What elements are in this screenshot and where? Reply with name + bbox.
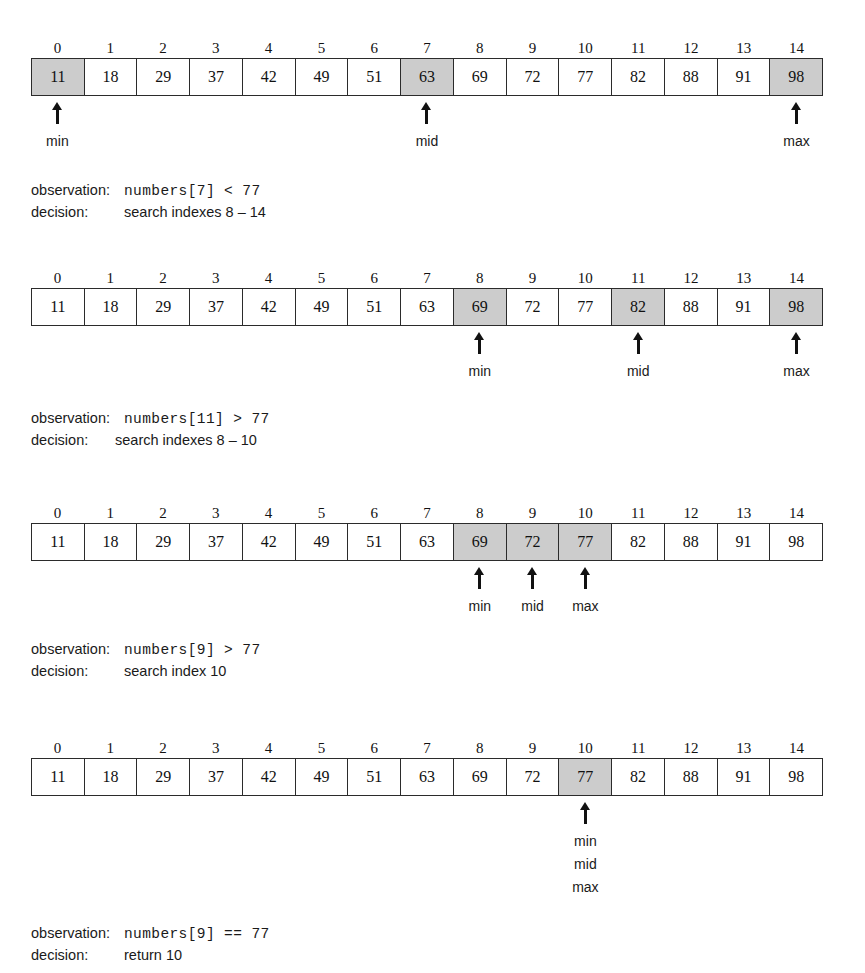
- step-caption: observation:numbers[7] < 77decision:sear…: [31, 182, 631, 226]
- array-cell: 49: [296, 759, 349, 795]
- array-cell: 37: [190, 289, 243, 325]
- index-label: 13: [717, 38, 770, 58]
- array-cell: 82: [612, 759, 665, 795]
- array-cell: 88: [665, 759, 718, 795]
- step-caption: observation:numbers[9] > 77decision:sear…: [31, 641, 631, 685]
- observation-line: observation:numbers[7] < 77: [31, 182, 631, 204]
- array-cell: 98: [770, 759, 822, 795]
- observation-line: observation:numbers[9] == 77: [31, 925, 631, 947]
- index-label: 0: [31, 503, 84, 523]
- search-step-3: 0123456789101112131411182937424951636972…: [31, 503, 823, 617]
- array-cell: 51: [348, 524, 401, 560]
- index-label: 9: [506, 38, 559, 58]
- index-label-row: 01234567891011121314: [31, 38, 823, 58]
- array-cell: 42: [243, 59, 296, 95]
- index-label: 14: [770, 738, 823, 758]
- index-label: 4: [242, 738, 295, 758]
- index-label-row: 01234567891011121314: [31, 268, 823, 288]
- binary-search-figure: 0123456789101112131411182937424951636972…: [0, 0, 865, 973]
- index-label: 3: [189, 268, 242, 288]
- observation-expression: numbers[7] < 77: [124, 183, 261, 199]
- index-label: 5: [295, 503, 348, 523]
- array-cell: 37: [190, 759, 243, 795]
- pointer-row: minmidmax: [31, 326, 823, 382]
- array-cell: 51: [348, 59, 401, 95]
- index-label: 14: [770, 38, 823, 58]
- index-label: 4: [242, 38, 295, 58]
- array-cell-highlighted: 82: [612, 289, 665, 325]
- index-label: 0: [31, 738, 84, 758]
- array-cell: 88: [665, 289, 718, 325]
- index-label: 11: [612, 503, 665, 523]
- arrow-up-icon: [580, 567, 591, 589]
- index-label: 3: [189, 38, 242, 58]
- index-label: 5: [295, 268, 348, 288]
- index-label: 6: [348, 738, 401, 758]
- array-cell: 11: [32, 289, 85, 325]
- array-cell: 69: [454, 59, 507, 95]
- array-cell: 18: [85, 524, 138, 560]
- index-label: 4: [242, 268, 295, 288]
- pointer-label: min: [31, 130, 84, 153]
- array-row: 111829374249516369727782889198: [31, 523, 823, 561]
- index-label: 10: [559, 503, 612, 523]
- pointer-row: minmidmax: [31, 96, 823, 152]
- observation-expression: numbers[9] > 77: [124, 642, 261, 658]
- pointer-marker: mid: [506, 561, 559, 618]
- pointer-labels: max: [559, 595, 612, 618]
- index-label: 10: [559, 38, 612, 58]
- pointer-row: minmidmax: [31, 561, 823, 617]
- array-cell: 18: [85, 759, 138, 795]
- pointer-label: mid: [401, 130, 454, 153]
- index-label: 8: [453, 38, 506, 58]
- decision-line: decision:search indexes 8 – 10: [31, 432, 631, 454]
- index-label: 7: [401, 738, 454, 758]
- array-cell: 29: [137, 524, 190, 560]
- array-cell: 82: [612, 524, 665, 560]
- decision-label: decision:: [31, 432, 115, 448]
- index-label: 3: [189, 738, 242, 758]
- array-cell: 77: [559, 59, 612, 95]
- index-label: 10: [559, 268, 612, 288]
- observation-expression: numbers[11] > 77: [124, 411, 270, 427]
- arrow-up-icon: [52, 102, 63, 124]
- array-cell: 98: [770, 524, 822, 560]
- array-cell-highlighted: 98: [770, 289, 822, 325]
- index-label: 13: [717, 503, 770, 523]
- array-cell: 72: [507, 289, 560, 325]
- array-cell: 11: [32, 524, 85, 560]
- array-row: 111829374249516369727782889198: [31, 288, 823, 326]
- arrow-up-icon: [474, 332, 485, 354]
- array-cell: 29: [137, 289, 190, 325]
- search-step-1: 0123456789101112131411182937424951636972…: [31, 38, 823, 152]
- index-label: 1: [84, 268, 137, 288]
- index-label: 10: [559, 738, 612, 758]
- index-label: 6: [348, 38, 401, 58]
- array-cell: 63: [401, 289, 454, 325]
- arrow-up-icon: [474, 567, 485, 589]
- index-label: 3: [189, 503, 242, 523]
- array-cell: 72: [507, 59, 560, 95]
- index-label: 5: [295, 38, 348, 58]
- pointer-labels: min: [31, 130, 84, 153]
- decision-line: decision:return 10: [31, 947, 631, 969]
- index-label: 8: [453, 738, 506, 758]
- index-label: 8: [453, 268, 506, 288]
- index-label: 6: [348, 503, 401, 523]
- array-row: 111829374249516369727782889198: [31, 758, 823, 796]
- pointer-label: mid: [559, 853, 612, 876]
- pointer-labels: minmidmax: [559, 830, 612, 899]
- array-cell: 18: [85, 59, 138, 95]
- arrow-up-icon: [421, 102, 432, 124]
- decision-text: return 10: [124, 947, 182, 963]
- index-label: 14: [770, 503, 823, 523]
- pointer-label: max: [770, 130, 823, 153]
- index-label: 7: [401, 38, 454, 58]
- array-cell: 51: [348, 289, 401, 325]
- index-label: 14: [770, 268, 823, 288]
- pointer-marker: minmidmax: [559, 796, 612, 899]
- array-cell: 91: [718, 524, 771, 560]
- index-label: 1: [84, 38, 137, 58]
- pointer-labels: max: [770, 360, 823, 383]
- array-cell: 42: [243, 759, 296, 795]
